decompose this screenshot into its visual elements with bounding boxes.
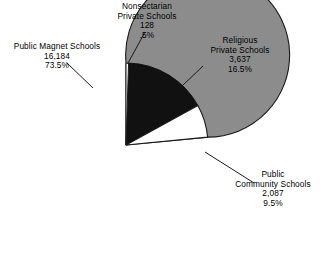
slice-label-nonsectarian-private-schools: Nonsectarian Private Schools 128 .5% <box>104 2 190 40</box>
slice-label-percent: .5% <box>104 31 190 41</box>
slice-label-public-community-schools: Public Community Schools 2,087 9.5% <box>226 170 320 208</box>
slice-label-percent: 9.5% <box>226 199 320 209</box>
slice-label-public-magnet-schools: Public Magnet Schools 16,184 73.5% <box>2 42 112 71</box>
slice-label-religious-private-schools: Religious Private Schools 3,637 16.5% <box>194 36 286 74</box>
slice-label-percent: 16.5% <box>194 65 286 75</box>
pie-chart-figure: Nonsectarian Private Schools 128 .5% Rel… <box>0 0 323 267</box>
slice-label-percent: 73.5% <box>2 61 112 71</box>
